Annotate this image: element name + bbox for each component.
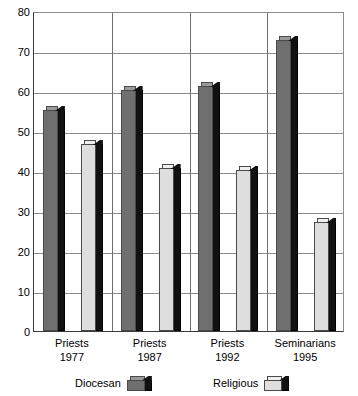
x-axis-label-line2: 1992: [189, 350, 267, 364]
bar-diocesan-1995: [276, 36, 298, 331]
bar-chart: 80706050403020100 Priests1977Priests1987…: [0, 0, 358, 396]
bar-diocesan-1992: [198, 82, 220, 331]
bar-column: [43, 106, 65, 331]
y-axis-tick-labels: 80706050403020100: [0, 12, 30, 332]
bar-column: [236, 166, 258, 331]
x-axis-label-line2: 1987: [111, 350, 189, 364]
bar-side-face: [291, 40, 298, 331]
bar-column: [198, 82, 220, 331]
y-axis-tick-10: 10: [2, 287, 30, 298]
legend-swatch-side: [282, 380, 289, 391]
bar-front-face: [159, 168, 174, 331]
bar-front-face: [43, 110, 58, 331]
x-axis-label-line1: Priests: [111, 336, 189, 350]
bar-column: [159, 164, 181, 331]
bar-side-face: [251, 170, 258, 331]
bar-top-face: [81, 140, 103, 145]
y-axis-tick-60: 60: [2, 87, 30, 98]
legend-label: Diocesan: [75, 377, 121, 389]
y-axis-tick-40: 40: [2, 167, 30, 178]
x-axis-category-labels: Priests1977Priests1987Priests1992Seminar…: [33, 336, 344, 372]
legend-label: Religious: [213, 377, 258, 389]
bar-front-face: [198, 86, 213, 331]
bar-top-face: [276, 36, 298, 41]
bar-diocesan-1987: [121, 86, 143, 331]
bar-front-face: [276, 40, 291, 331]
legend-swatch-dark-gray-3d-box: [127, 376, 152, 391]
x-axis-label-line1: Seminarians: [266, 336, 344, 350]
bar-front-face: [81, 144, 96, 331]
bar-group: [112, 13, 190, 331]
bar-diocesan-1977: [43, 106, 65, 331]
x-axis-label-1992: Priests1992: [189, 336, 267, 364]
bar-side-face: [96, 144, 103, 331]
bar-religious-1987: [159, 164, 181, 331]
legend-swatch-side: [145, 380, 152, 391]
bar-side-face: [58, 110, 65, 331]
y-axis-tick-30: 30: [2, 207, 30, 218]
bar-religious-1977: [81, 140, 103, 331]
legend-swatch-top: [130, 376, 152, 381]
bar-group: [34, 13, 112, 331]
x-axis-label-1987: Priests1987: [111, 336, 189, 364]
legend-swatch-front: [127, 380, 145, 391]
bar-column: [81, 140, 103, 331]
bar-side-face: [136, 90, 143, 331]
bar-religious-1992: [236, 166, 258, 331]
bar-top-face: [43, 106, 65, 111]
x-axis-label-line1: Priests: [33, 336, 111, 350]
bar-top-face: [198, 82, 220, 87]
legend-swatch-light-gray-3d-box: [264, 376, 289, 391]
bar-front-face: [236, 170, 251, 331]
legend-swatch-top: [267, 376, 289, 381]
x-axis-label-line1: Priests: [189, 336, 267, 350]
bar-top-face: [159, 164, 181, 169]
y-axis-tick-50: 50: [2, 127, 30, 138]
y-axis-tick-0: 0: [2, 327, 30, 338]
x-axis-label-line2: 1977: [33, 350, 111, 364]
legend-entry-religious[interactable]: Religious: [213, 374, 289, 392]
y-axis-tick-80: 80: [2, 7, 30, 18]
legend-swatch-top-plane: [130, 376, 145, 381]
bar-front-face: [314, 222, 329, 331]
chart-legend: DiocesanReligious: [33, 372, 344, 394]
y-axis-tick-70: 70: [2, 47, 30, 58]
bar-column: [314, 218, 336, 331]
x-axis-label-1977: Priests1977: [33, 336, 111, 364]
bar-top-face: [314, 218, 336, 223]
bar-group: [267, 13, 345, 331]
bar-side-face: [213, 86, 220, 331]
y-axis-tick-20: 20: [2, 247, 30, 258]
bar-top-face: [236, 166, 258, 171]
bar-group: [190, 13, 268, 331]
x-axis-label-1995: Seminarians1995: [266, 336, 344, 364]
legend-swatch-front: [264, 380, 282, 391]
bar-top-face: [121, 86, 143, 91]
bar-column: [276, 36, 298, 331]
legend-entry-diocesan[interactable]: Diocesan: [75, 374, 152, 392]
bar-side-face: [329, 222, 336, 331]
legend-swatch-top-plane: [267, 376, 282, 381]
bar-front-face: [121, 90, 136, 331]
plot-area: [33, 12, 344, 332]
bar-side-face: [174, 168, 181, 331]
bar-column: [121, 86, 143, 331]
bar-religious-1995: [314, 218, 336, 331]
x-axis-label-line2: 1995: [266, 350, 344, 364]
